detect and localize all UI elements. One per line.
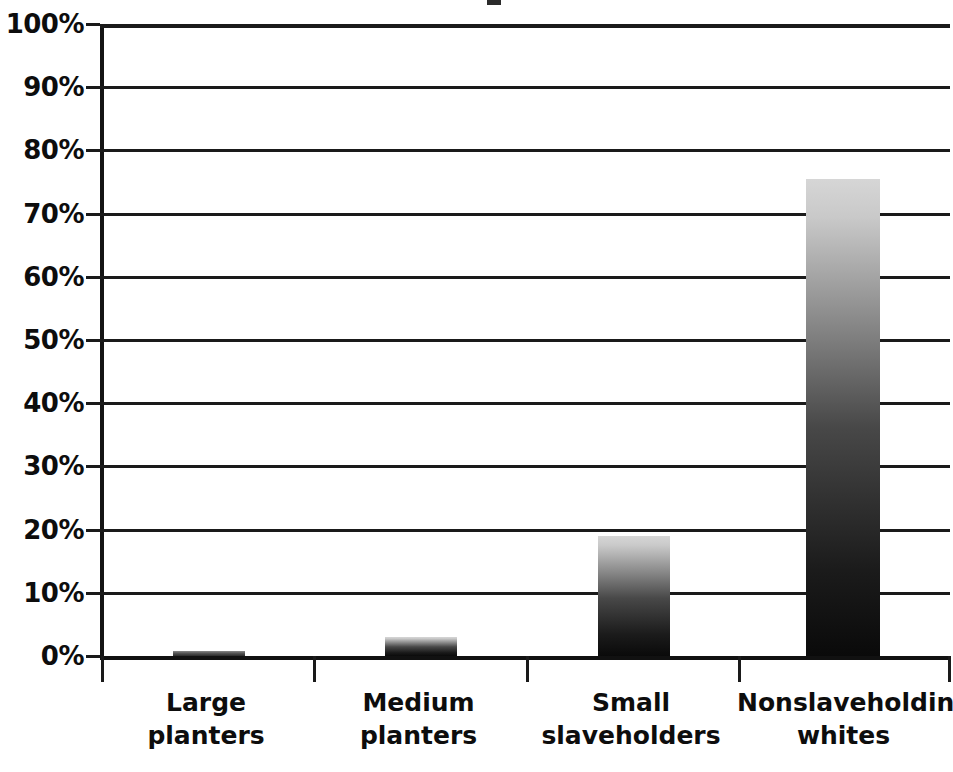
y-axis-labels: 100% 90% 80% 70% 60% 50% 40% 30% 20% 10%… (0, 0, 84, 772)
cropped-title-remnant (487, 0, 501, 5)
x-axis-label-line1: Large (100, 686, 312, 719)
y-axis-label-50: 50% (2, 327, 84, 353)
y-axis-tick-0 (86, 655, 100, 658)
y-axis-tick-50 (86, 339, 100, 342)
y-axis-tick-10 (86, 592, 100, 595)
x-axis-label-line2: slaveholders (525, 719, 737, 752)
x-axis-label-line2: whites (737, 719, 950, 752)
x-axis-label-nonslaveholding-whites: Nonslaveholding whites (737, 686, 950, 753)
x-axis-label-line1: Medium (312, 686, 525, 719)
x-axis-tick-1 (313, 656, 316, 682)
x-axis-label-line1: Nonslaveholding (737, 686, 950, 719)
x-axis-tick-2 (526, 656, 529, 682)
gridline-80 (100, 149, 950, 152)
x-axis-label-medium-planters: Medium planters (312, 686, 525, 753)
x-axis-label-small-slaveholders: Small slaveholders (525, 686, 737, 753)
plot-area (100, 24, 950, 656)
bar-medium-planters (385, 637, 457, 656)
y-axis-tick-20 (86, 529, 100, 532)
x-axis-label-large-planters: Large planters (100, 686, 312, 753)
x-axis-tick-0 (101, 656, 104, 682)
y-axis-label-20: 20% (2, 517, 84, 543)
bar-small-slaveholders (598, 536, 670, 656)
y-axis-tick-60 (86, 276, 100, 279)
y-axis-label-30: 30% (2, 453, 84, 479)
bar-nonslaveholding-whites (806, 179, 880, 656)
y-axis-label-70: 70% (2, 201, 84, 227)
x-axis-labels: Large planters Medium planters Small sla… (100, 686, 950, 772)
x-axis-tick-3 (738, 656, 741, 682)
gridline-90 (100, 86, 950, 89)
x-axis-tick-4 (948, 656, 951, 682)
gridline-100 (100, 24, 950, 28)
x-axis-label-line2: planters (312, 719, 525, 752)
x-axis-baseline (100, 656, 950, 660)
y-axis-tick-70 (86, 213, 100, 216)
y-axis-tick-100 (86, 23, 100, 26)
bar-chart: 100% 90% 80% 70% 60% 50% 40% 30% 20% 10%… (0, 0, 953, 772)
y-axis-tick-90 (86, 86, 100, 89)
y-axis-tick-80 (86, 149, 100, 152)
y-axis-label-40: 40% (2, 390, 84, 416)
x-axis-label-line2: planters (100, 719, 312, 752)
y-axis-label-90: 90% (2, 74, 84, 100)
y-axis-label-60: 60% (2, 264, 84, 290)
y-axis-label-0: 0% (2, 643, 84, 669)
x-axis-label-line1: Small (525, 686, 737, 719)
y-axis-label-10: 10% (2, 580, 84, 606)
y-axis-tick-40 (86, 402, 100, 405)
y-axis-tick-30 (86, 465, 100, 468)
y-axis-label-100: 100% (2, 11, 84, 37)
y-axis-label-80: 80% (2, 137, 84, 163)
